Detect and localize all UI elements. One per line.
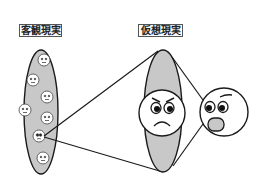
- surprised-face-icon: [200, 88, 248, 136]
- small-face-icon: [38, 54, 50, 66]
- objective-reality-label: 客観現実: [19, 24, 62, 37]
- small-face-icon: [41, 91, 53, 103]
- small-face-icon: [41, 112, 53, 124]
- small-face-icon: [19, 104, 31, 116]
- highlighted-small-face-icon: [33, 130, 45, 142]
- angry-face-icon: [139, 90, 185, 136]
- small-face-icon: [27, 74, 39, 86]
- projection-line-lower: [44, 137, 163, 172]
- virtual-reality-label: 仮想現実: [138, 24, 183, 37]
- small-face-icon: [37, 152, 49, 164]
